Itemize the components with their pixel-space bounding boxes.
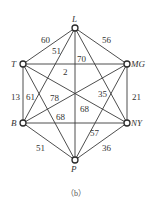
figure-caption: （b） (66, 189, 86, 198)
node-label-b: B (11, 118, 17, 128)
edge-weight-label: 51 (36, 143, 45, 153)
edges (23, 28, 127, 160)
edge-weight-label: 13 (11, 92, 21, 102)
node-mg (124, 61, 130, 67)
edge-weight-label: 61 (26, 92, 35, 102)
edge-weight-label: 70 (77, 54, 87, 64)
edge-L-T (23, 28, 75, 64)
node-label-ny: NY (130, 118, 143, 128)
node-label-l: L (71, 14, 77, 24)
node-t (20, 61, 26, 67)
edge-weight-label: 60 (41, 35, 51, 45)
edge-weight-label: 35 (98, 89, 108, 99)
node-p (72, 157, 78, 163)
edge-weight-label: 68 (56, 112, 66, 122)
edge-weight-label: 68 (80, 104, 90, 114)
edge-weight-label: 36 (102, 143, 112, 153)
edge-weight-label: 51 (52, 46, 61, 56)
edge-weight-label: 78 (50, 93, 60, 103)
edge-B-P (23, 123, 75, 160)
edge-NY-P (75, 123, 127, 160)
graph-diagram: 60515670213617835216868575136 LTMGBNYP （… (0, 0, 154, 208)
node-label-t: T (11, 59, 17, 69)
edge-weight-label: 56 (102, 35, 112, 45)
node-l (72, 25, 78, 31)
edge-weight-label: 57 (90, 128, 100, 138)
edge-weight-label: 21 (132, 92, 141, 102)
node-b (20, 120, 26, 126)
node-label-p: P (70, 164, 77, 174)
node-label-mg: MG (130, 59, 145, 69)
node-ny (124, 120, 130, 126)
edge-weight-label: 2 (63, 67, 68, 77)
